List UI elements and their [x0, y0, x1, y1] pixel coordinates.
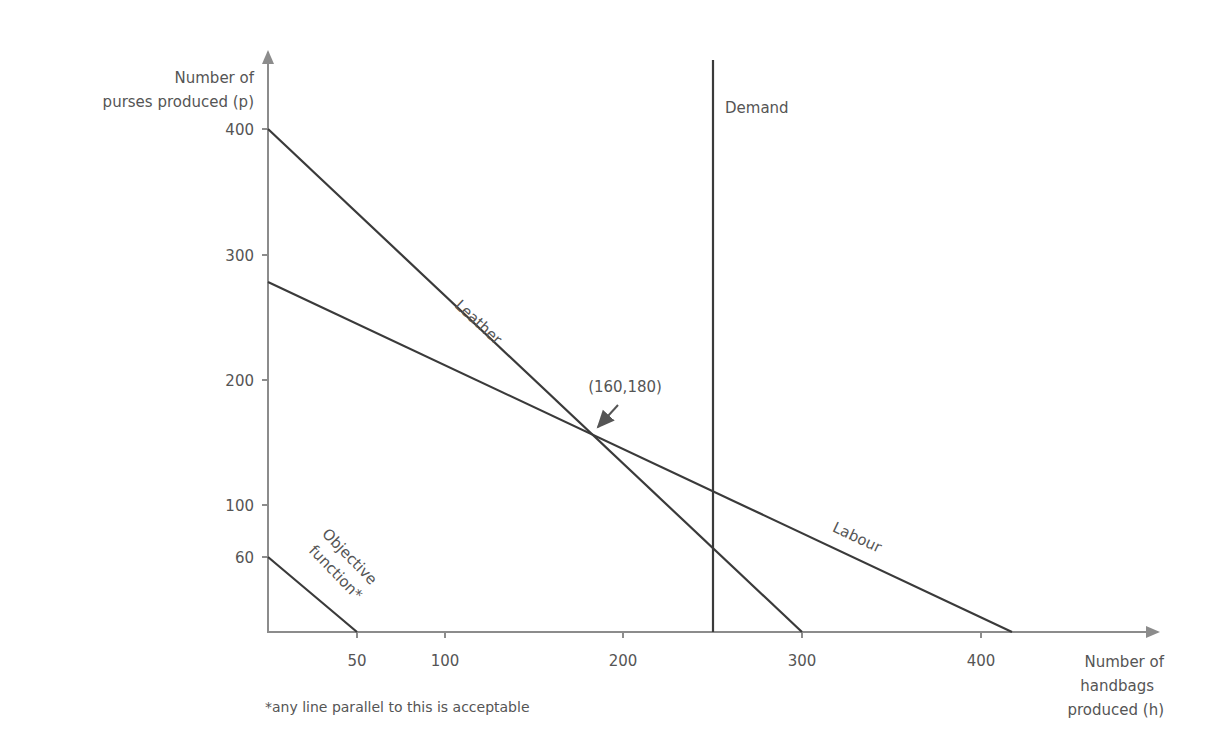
- demand-label: Demand: [725, 99, 789, 117]
- x-tick-label-50: 50: [347, 652, 366, 670]
- y-tick-label-200: 200: [225, 372, 254, 390]
- y-tick-labels: 400 300 200 100 60: [225, 121, 254, 567]
- objective-function-label: Objective function*: [305, 525, 381, 604]
- x-tick-label-400: 400: [967, 652, 996, 670]
- intersection-arrow: [598, 405, 618, 427]
- x-tick-labels: 50 100 200 300 400: [347, 652, 995, 670]
- y-tick-label-300: 300: [225, 247, 254, 265]
- labour-line: [268, 282, 1012, 632]
- x-axis-title-line2: handbags: [1080, 677, 1154, 695]
- x-axis-title-line3: produced (h): [1067, 701, 1164, 719]
- leather-label: Leather: [451, 296, 506, 349]
- y-tick-label-60: 60: [235, 549, 254, 567]
- series-lines: [268, 60, 1012, 632]
- y-tick-label-100: 100: [225, 497, 254, 515]
- x-tick-label-100: 100: [431, 652, 460, 670]
- intersection-label: (160,180): [588, 378, 662, 396]
- y-axis-title-line1: Number of: [175, 69, 255, 87]
- y-axis-title: Number of purses produced (p): [103, 69, 255, 111]
- x-tick-label-300: 300: [788, 652, 817, 670]
- x-tick-label-200: 200: [609, 652, 638, 670]
- intersection-annotation: (160,180): [588, 378, 662, 427]
- x-axis-title: Number of handbags produced (h): [1067, 653, 1164, 719]
- x-axis-title-line1: Number of: [1085, 653, 1165, 671]
- y-tick-label-400: 400: [225, 121, 254, 139]
- chart: 400 300 200 100 60 50 100 200 300 400 Nu…: [0, 0, 1229, 754]
- footnote: *any line parallel to this is acceptable: [265, 699, 530, 715]
- y-axis-title-line2: purses produced (p): [103, 93, 254, 111]
